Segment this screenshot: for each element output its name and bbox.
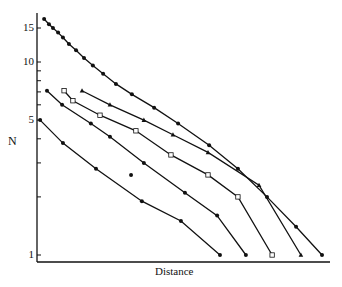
curve-3-point xyxy=(206,173,210,177)
curve-4-point xyxy=(89,122,93,126)
curve-5-point xyxy=(38,118,42,122)
curve-3-point xyxy=(236,195,240,199)
curve-1-point xyxy=(152,106,156,110)
curve-1-point xyxy=(101,72,105,76)
curve-3-point xyxy=(134,129,138,133)
curve-1-point xyxy=(265,195,269,199)
curve-1-point xyxy=(114,82,118,86)
curve-1-point xyxy=(47,22,51,26)
curve-4-point xyxy=(142,161,146,165)
curve-2-point xyxy=(80,88,85,92)
axes xyxy=(37,13,330,262)
curve-4-point xyxy=(215,214,219,218)
curve-4-line xyxy=(47,91,246,255)
curve-4-point xyxy=(45,89,49,93)
curve-3-point xyxy=(62,89,66,93)
curve-3-point xyxy=(270,253,274,257)
curve-4-point xyxy=(60,103,64,107)
y-axis-label: N xyxy=(8,134,17,149)
curve-1-point xyxy=(74,48,78,52)
x-axis-label: Distance xyxy=(155,265,193,277)
chart-plot-area xyxy=(0,0,342,287)
curve-1-point xyxy=(236,167,240,171)
curve-1-point xyxy=(61,35,65,39)
curve-5-point xyxy=(218,253,222,257)
curve-5-line xyxy=(40,120,220,255)
curve-1-point xyxy=(42,17,46,21)
curve-3-point xyxy=(71,99,75,103)
curve-1-point xyxy=(67,42,71,46)
curve-1-point xyxy=(320,253,324,257)
curve-1-point xyxy=(51,26,55,30)
curve-1-point xyxy=(130,92,134,96)
curve-5-point xyxy=(94,167,98,171)
curve-1-point xyxy=(207,143,211,147)
curve-1-point xyxy=(294,225,298,229)
curve-1-point xyxy=(176,122,180,126)
curve-5-point xyxy=(140,199,144,203)
curve-4-point xyxy=(244,253,248,257)
curve-1-point xyxy=(56,31,60,35)
y-tick-label: 10 xyxy=(12,56,34,67)
curve-4-point xyxy=(183,191,187,195)
curve-5-point xyxy=(179,219,183,223)
curve-1-point xyxy=(91,63,95,67)
curve-1-point xyxy=(82,56,86,60)
y-tick-label: 15 xyxy=(12,22,34,33)
curve-5-point xyxy=(61,141,65,145)
curve-3-point xyxy=(169,153,173,157)
y-tick-label: 5 xyxy=(12,114,34,125)
curve-4-point xyxy=(108,135,112,139)
outlier-point xyxy=(129,173,133,177)
curve-3-point xyxy=(98,113,102,117)
y-tick-label: 1 xyxy=(12,249,34,260)
